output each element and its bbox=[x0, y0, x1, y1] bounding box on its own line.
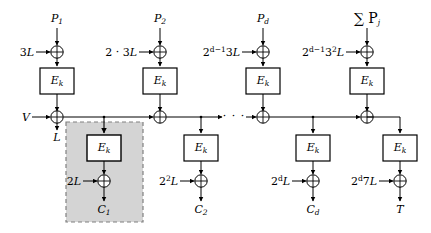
diagram-canvas bbox=[0, 0, 431, 233]
chain-branches bbox=[103, 116, 400, 133]
block-cipher-label-lower-2: Ek bbox=[195, 142, 208, 155]
column-4-top bbox=[346, 28, 384, 111]
offset-label-2dm1-3L: 2d−13L bbox=[203, 46, 240, 58]
plaintext-label-P-d: Pd bbox=[257, 13, 269, 26]
output-label-T: T bbox=[396, 204, 403, 217]
block-cipher-label-top-4: Ek bbox=[361, 75, 374, 88]
plaintext-label-P-1: P1 bbox=[51, 13, 63, 26]
output-label-C-2: C2 bbox=[194, 204, 207, 217]
offset-label-22L: 22L bbox=[159, 175, 178, 187]
block-cipher-label-top-2: Ek bbox=[154, 75, 167, 88]
checksum-input-label-V: V bbox=[22, 112, 30, 123]
offset-label-3L: 3L bbox=[20, 47, 34, 58]
offset-label-2d7L: 2d7L bbox=[351, 175, 377, 187]
output-label-C-d: Cd bbox=[306, 204, 319, 217]
plaintext-label-P-2: P2 bbox=[154, 13, 166, 26]
block-cipher-label-lower-3: Ek bbox=[307, 142, 320, 155]
chain-ellipsis: · · · bbox=[223, 111, 245, 122]
offset-label-2L: 2L bbox=[67, 176, 81, 187]
cipher-mode-diagram: P1 P2 Pd ∑ Pj 3L 2 · 3L 2d−13L 2d−132L E… bbox=[0, 0, 431, 233]
offset-label-2dm1-32L: 2d−132L bbox=[302, 46, 344, 58]
offset-label-2dL: 2dL bbox=[271, 175, 290, 187]
block-cipher-label-lower-1: Ek bbox=[98, 142, 111, 155]
block-cipher-label-top-1: Ek bbox=[51, 75, 64, 88]
output-label-C-1: C1 bbox=[97, 204, 110, 217]
block-cipher-label-lower-4: Ek bbox=[394, 142, 407, 155]
chain-label-L: L bbox=[53, 132, 60, 143]
plaintext-label-sum-P-j: ∑ Pj bbox=[354, 11, 380, 27]
block-cipher-label-top-3: Ek bbox=[257, 75, 270, 88]
column-2-top bbox=[139, 28, 177, 111]
column-1-top bbox=[36, 28, 74, 111]
column-3-top bbox=[242, 28, 280, 111]
offset-label-2-3L: 2 · 3L bbox=[105, 47, 137, 58]
